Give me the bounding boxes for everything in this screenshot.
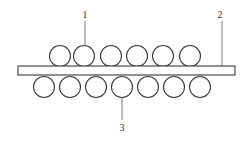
lower-roller (164, 77, 185, 98)
upper-roller (50, 46, 71, 67)
upper-roller (180, 46, 201, 67)
lower-roller (86, 77, 107, 98)
upper-roller (74, 46, 95, 67)
lower-roller (112, 77, 133, 98)
upper-roller (101, 46, 122, 67)
plate (18, 66, 235, 75)
lower-roller (60, 77, 81, 98)
callout-label-2: 2 (218, 9, 223, 20)
upper-roller-row (50, 46, 201, 67)
lower-roller (34, 77, 55, 98)
roller-plate-diagram: 123 (0, 0, 249, 141)
lower-roller-row (34, 77, 211, 98)
lower-roller (138, 77, 159, 98)
callout-label-1: 1 (83, 9, 88, 20)
upper-roller (153, 46, 174, 67)
lower-roller (190, 77, 211, 98)
callout-label-3: 3 (120, 122, 125, 133)
upper-roller (127, 46, 148, 67)
